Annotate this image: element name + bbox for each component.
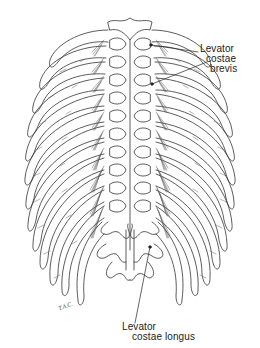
- label-levator-costae-longus: Levator costae longus: [122, 322, 195, 342]
- vertebral-column: [97, 18, 163, 280]
- label-brevis-line3: brevis: [200, 64, 260, 74]
- label-levator-costae-brevis: Levator costae brevis: [200, 44, 260, 74]
- left-ribs: [25, 30, 108, 305]
- label-longus-line2: costae longus: [122, 332, 195, 342]
